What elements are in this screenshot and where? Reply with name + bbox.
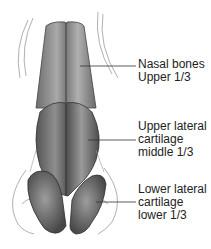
nasal-bones-shape xyxy=(36,22,96,108)
label-lower-lateral-cartilage: Lower lateral cartilage lower 1/3 xyxy=(138,183,207,222)
label-line: lower 1/3 xyxy=(138,209,207,222)
label-line: middle 1/3 xyxy=(138,146,207,159)
label-nasal-bones: Nasal bones Upper 1/3 xyxy=(138,58,205,84)
label-upper-lateral-cartilage: Upper lateral cartilage middle 1/3 xyxy=(138,120,207,159)
label-line: Upper 1/3 xyxy=(138,71,205,84)
